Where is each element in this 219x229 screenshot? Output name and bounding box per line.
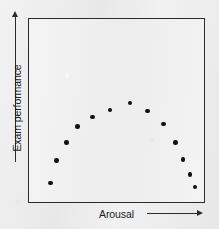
data-point bbox=[173, 140, 178, 145]
data-point bbox=[64, 140, 69, 145]
data-point bbox=[90, 115, 95, 120]
plot-area-frame bbox=[28, 18, 205, 203]
x-axis-arrowhead-icon bbox=[197, 210, 203, 216]
data-point bbox=[145, 109, 150, 114]
data-point bbox=[75, 124, 80, 129]
scatter-plot-figure: Exam performance Arousal bbox=[0, 0, 219, 229]
data-point bbox=[188, 172, 193, 177]
y-axis-label: Exam performance bbox=[11, 64, 23, 151]
data-point bbox=[54, 158, 59, 163]
x-axis-arrow-line bbox=[147, 213, 198, 214]
data-point bbox=[161, 122, 166, 127]
x-axis-label: Arousal bbox=[99, 208, 134, 220]
data-point bbox=[108, 108, 113, 113]
data-point bbox=[193, 185, 198, 190]
data-point bbox=[128, 101, 133, 106]
data-point bbox=[48, 181, 53, 186]
data-point bbox=[181, 157, 186, 162]
